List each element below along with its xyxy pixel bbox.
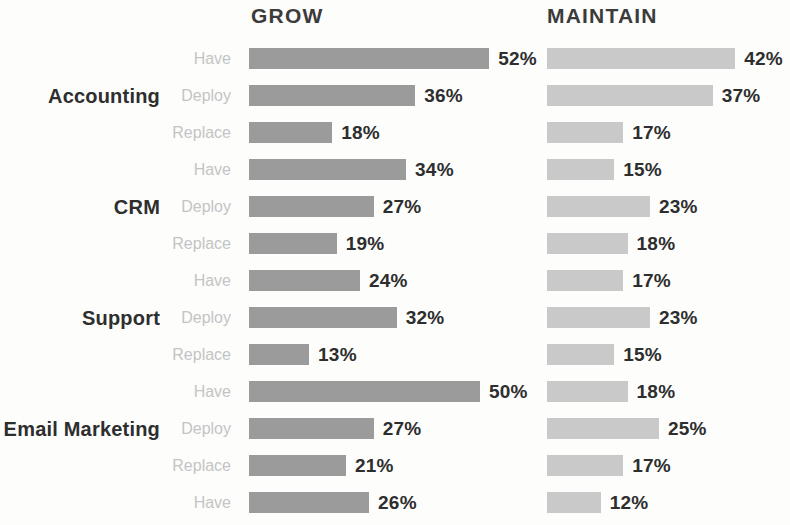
bar-value-maintain: 15% bbox=[623, 159, 662, 181]
series-label-replace: Replace bbox=[0, 457, 240, 475]
bar-group-maintain: 17% bbox=[547, 270, 671, 292]
chart-row: Have26%12% bbox=[0, 484, 790, 521]
bar-value-grow: 21% bbox=[355, 455, 394, 477]
grouped-bar-chart: GROW MAINTAIN Have52%42%Deploy36%37%Repl… bbox=[0, 0, 790, 525]
bar-value-maintain: 25% bbox=[668, 418, 707, 440]
bar-group-maintain: 25% bbox=[547, 418, 707, 440]
series-label-have: Have bbox=[0, 494, 240, 512]
bar-grow bbox=[249, 48, 489, 69]
bar-maintain bbox=[547, 48, 735, 69]
bar-group-maintain: 15% bbox=[547, 159, 662, 181]
bar-group-maintain: 23% bbox=[547, 196, 698, 218]
chart-row: Replace18%17% bbox=[0, 114, 790, 151]
bar-group-grow: 27% bbox=[249, 418, 421, 440]
bar-grow bbox=[249, 381, 480, 402]
bar-grow bbox=[249, 233, 337, 254]
bar-value-grow: 34% bbox=[415, 159, 454, 181]
bar-maintain bbox=[547, 307, 650, 328]
bar-group-maintain: 12% bbox=[547, 492, 648, 514]
bar-maintain bbox=[547, 233, 628, 254]
bar-value-maintain: 15% bbox=[623, 344, 662, 366]
bar-maintain bbox=[547, 344, 614, 365]
bar-group-grow: 24% bbox=[249, 270, 408, 292]
bar-maintain bbox=[547, 85, 713, 106]
bar-maintain bbox=[547, 455, 623, 476]
bar-value-grow: 50% bbox=[489, 381, 528, 403]
series-label-replace: Replace bbox=[0, 346, 240, 364]
chart-row: Replace21%17% bbox=[0, 447, 790, 484]
bar-group-maintain: 23% bbox=[547, 307, 698, 329]
series-label-have: Have bbox=[0, 161, 240, 179]
bar-value-maintain: 12% bbox=[610, 492, 649, 514]
chart-row: Have24%17% bbox=[0, 262, 790, 299]
bar-maintain bbox=[547, 196, 650, 217]
category-label: CRM bbox=[0, 195, 160, 217]
bar-value-maintain: 17% bbox=[632, 455, 671, 477]
series-label-have: Have bbox=[0, 383, 240, 401]
bar-group-grow: 27% bbox=[249, 196, 421, 218]
bar-value-maintain: 18% bbox=[637, 233, 676, 255]
chart-row: Have34%15% bbox=[0, 151, 790, 188]
bar-group-maintain: 17% bbox=[547, 122, 671, 144]
bar-value-grow: 36% bbox=[424, 85, 463, 107]
column-header-maintain: MAINTAIN bbox=[547, 4, 658, 28]
bar-group-maintain: 37% bbox=[547, 85, 760, 107]
bar-value-grow: 24% bbox=[369, 270, 408, 292]
bar-grow bbox=[249, 344, 309, 365]
bar-grow bbox=[249, 418, 374, 439]
chart-row: Replace19%18% bbox=[0, 225, 790, 262]
bar-group-grow: 13% bbox=[249, 344, 357, 366]
bar-group-grow: 52% bbox=[249, 48, 537, 70]
category-label: Accounting bbox=[0, 84, 160, 106]
bar-group-grow: 36% bbox=[249, 85, 463, 107]
chart-row: Have50%18% bbox=[0, 373, 790, 410]
bar-maintain bbox=[547, 270, 623, 291]
bar-group-maintain: 17% bbox=[547, 455, 671, 477]
column-header-grow: GROW bbox=[251, 4, 323, 28]
bar-group-grow: 32% bbox=[249, 307, 444, 329]
bar-maintain bbox=[547, 492, 601, 513]
bar-group-grow: 21% bbox=[249, 455, 394, 477]
bar-grow bbox=[249, 492, 369, 513]
chart-row: Replace13%15% bbox=[0, 336, 790, 373]
bar-grow bbox=[249, 159, 406, 180]
bar-value-grow: 18% bbox=[341, 122, 380, 144]
category-label: Email Marketing bbox=[0, 417, 160, 439]
bar-group-maintain: 18% bbox=[547, 381, 675, 403]
bar-grow bbox=[249, 122, 332, 143]
bar-value-maintain: 37% bbox=[722, 85, 761, 107]
bar-value-grow: 13% bbox=[318, 344, 357, 366]
bar-value-maintain: 23% bbox=[659, 196, 698, 218]
bar-group-maintain: 18% bbox=[547, 233, 675, 255]
bar-value-maintain: 17% bbox=[632, 270, 671, 292]
bar-value-grow: 52% bbox=[498, 48, 537, 70]
bar-grow bbox=[249, 85, 415, 106]
bar-value-maintain: 18% bbox=[637, 381, 676, 403]
bar-group-grow: 18% bbox=[249, 122, 380, 144]
bar-group-grow: 50% bbox=[249, 381, 528, 403]
bar-value-grow: 27% bbox=[383, 418, 422, 440]
bar-value-maintain: 42% bbox=[744, 48, 783, 70]
series-label-have: Have bbox=[0, 50, 240, 68]
bar-maintain bbox=[547, 418, 659, 439]
category-label: Support bbox=[0, 306, 160, 328]
bar-group-grow: 26% bbox=[249, 492, 417, 514]
bar-maintain bbox=[547, 381, 628, 402]
bar-value-maintain: 17% bbox=[632, 122, 671, 144]
bar-value-grow: 32% bbox=[406, 307, 445, 329]
chart-rows: Have52%42%Deploy36%37%Replace18%17%Accou… bbox=[0, 40, 790, 521]
bar-maintain bbox=[547, 159, 614, 180]
series-label-have: Have bbox=[0, 272, 240, 290]
bar-value-grow: 27% bbox=[383, 196, 422, 218]
bar-group-maintain: 15% bbox=[547, 344, 662, 366]
bar-grow bbox=[249, 196, 374, 217]
bar-maintain bbox=[547, 122, 623, 143]
bar-grow bbox=[249, 270, 360, 291]
series-label-replace: Replace bbox=[0, 124, 240, 142]
chart-row: Have52%42% bbox=[0, 40, 790, 77]
series-label-replace: Replace bbox=[0, 235, 240, 253]
bar-group-maintain: 42% bbox=[547, 48, 783, 70]
bar-value-maintain: 23% bbox=[659, 307, 698, 329]
bar-value-grow: 19% bbox=[346, 233, 385, 255]
bar-group-grow: 19% bbox=[249, 233, 384, 255]
